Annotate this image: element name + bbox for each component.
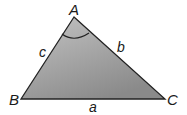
vertex-label-a: A (69, 2, 79, 17)
triangle-figure: A B C a b c (0, 0, 187, 115)
vertex-label-b: B (9, 92, 19, 107)
triangle-graphic (0, 0, 187, 115)
side-label-c: c (39, 45, 46, 59)
side-label-a: a (89, 100, 97, 114)
side-label-b: b (117, 40, 125, 54)
vertex-label-c: C (167, 92, 178, 107)
